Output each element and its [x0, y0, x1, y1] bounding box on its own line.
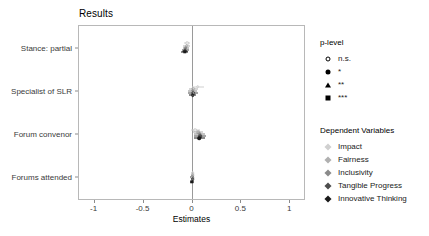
legend-dependent-variables: Dependent VariablesImpactFairnessInclusi… [320, 126, 407, 205]
y-axis-label-0: Stance: partial [21, 43, 72, 52]
y-axis-tick-2 [75, 134, 78, 135]
legend-item[interactable]: Fairness [320, 153, 407, 166]
x-axis-tick-label-4: 1 [287, 204, 291, 213]
legend-item-label: Inclusivity [336, 168, 373, 177]
data-point [183, 50, 186, 53]
x-axis-tick-label-3: 0.5 [235, 204, 246, 213]
results-chart: Results Stance: partialSpecialist of SLR… [0, 0, 429, 236]
y-axis-label-3: Forums attended [12, 173, 72, 182]
x-axis-tick-4 [289, 200, 290, 203]
legend-item[interactable]: n.s. [320, 52, 351, 65]
data-point [190, 180, 193, 183]
circle-open-icon [320, 52, 336, 65]
y-axis-label-2: Forum convenor [14, 130, 72, 139]
legend-item-label: *** [336, 93, 347, 102]
legend-item[interactable]: Innovative Thinking [320, 192, 407, 205]
chart-title: Results [79, 8, 113, 19]
circle-fill-icon [320, 65, 336, 78]
diamond-icon [320, 153, 336, 166]
x-axis-tick-label-2: 0 [189, 204, 193, 213]
legend-item-label: Impact [336, 142, 362, 151]
y-axis: Stance: partialSpecialist of SLRForum co… [0, 25, 78, 200]
legend-p-level: p-leveln.s.****** [320, 38, 351, 104]
x-axis-tick-label-1: -0.5 [136, 204, 150, 213]
diamond-icon [320, 192, 336, 205]
x-axis-tick-1 [143, 200, 144, 203]
y-axis-tick-3 [75, 177, 78, 178]
legend-item[interactable]: Impact [320, 140, 407, 153]
x-axis: -1-0.500.51Estimates [78, 200, 305, 232]
legend-item[interactable]: * [320, 65, 351, 78]
square-icon [320, 91, 336, 104]
data-point [198, 137, 202, 141]
x-axis-tick-2 [192, 200, 193, 203]
legend-item-label: * [336, 67, 341, 76]
diamond-icon [320, 166, 336, 179]
y-axis-label-1: Specialist of SLR [11, 86, 72, 95]
legend-item[interactable]: Tangible Progress [320, 179, 407, 192]
legend-item[interactable]: *** [320, 91, 351, 104]
y-axis-tick-1 [75, 90, 78, 91]
legend-item[interactable]: ** [320, 78, 351, 91]
x-axis-title: Estimates [78, 214, 305, 224]
legend-item-label: ** [336, 80, 344, 89]
diamond-icon [320, 179, 336, 192]
data-point [191, 93, 195, 97]
plot-panel [78, 25, 305, 200]
legend-item-label: Tangible Progress [336, 181, 402, 190]
x-axis-tick-0 [94, 200, 95, 203]
legend-title: p-level [320, 38, 351, 47]
x-axis-tick-label-0: -1 [90, 204, 97, 213]
x-axis-tick-3 [240, 200, 241, 203]
y-axis-tick-0 [75, 47, 78, 48]
diamond-icon [320, 140, 336, 153]
legend-item-label: Fairness [336, 155, 369, 164]
legend-item[interactable]: Inclusivity [320, 166, 407, 179]
legend-item-label: Innovative Thinking [336, 194, 407, 203]
triangle-icon [320, 78, 336, 91]
legend-title: Dependent Variables [320, 126, 407, 135]
legend-item-label: n.s. [336, 54, 351, 63]
